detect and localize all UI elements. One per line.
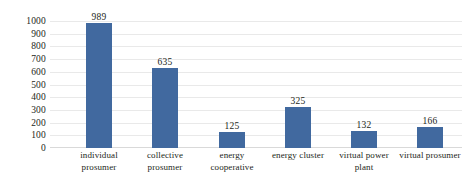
x-label-line2: prosumer [62, 162, 136, 174]
bar-slot: 132 [331, 21, 397, 148]
y-tick-label: 100 [2, 130, 46, 140]
x-axis-label-virtual-prosumer: virtual prosumer [393, 150, 464, 162]
y-tick-label: 800 [2, 41, 46, 51]
y-tick-label: 1000 [2, 16, 46, 26]
bar-slot: 325 [265, 21, 331, 148]
bar-value-label: 635 [158, 57, 173, 68]
bar-value-label: 989 [92, 12, 107, 23]
y-tick-label: 0 [2, 143, 46, 153]
bar-value-label: 125 [225, 121, 240, 132]
bar-slot: 989 [66, 21, 132, 148]
x-axis-label-individual-prosumer: individual prosumer [62, 150, 136, 173]
bar[interactable] [86, 23, 112, 148]
bar-value-label: 166 [423, 116, 438, 127]
y-tick-label: 500 [2, 80, 46, 90]
y-tick-label: 300 [2, 105, 46, 115]
y-tick-label: 700 [2, 54, 46, 64]
x-label-line1: individual [62, 150, 136, 162]
y-tick-label: 900 [2, 29, 46, 39]
x-label-line1: energy [195, 150, 269, 162]
bar[interactable] [417, 127, 443, 148]
bar-slot: 125 [199, 21, 265, 148]
y-tick-label: 600 [2, 67, 46, 77]
bar-chart: 1000 900 800 700 600 500 400 300 200 100… [0, 0, 464, 188]
bar[interactable] [219, 132, 245, 148]
bar[interactable] [285, 107, 311, 148]
bar-value-label: 132 [357, 120, 372, 131]
x-label-line1: virtual prosumer [393, 150, 464, 162]
bar[interactable] [351, 131, 377, 148]
x-label-line2: cooperative [195, 162, 269, 174]
x-label-line1: virtual power [327, 150, 401, 162]
bar-value-label: 325 [291, 96, 306, 107]
x-label-line2: prosumer [128, 162, 202, 174]
x-label-line2: plant [327, 162, 401, 174]
plot-area: 989 635 125 325 132 166 [50, 21, 462, 148]
x-label-line1: energy cluster [261, 150, 335, 162]
x-axis-label-virtual-power-plant: virtual power plant [327, 150, 401, 173]
y-tick-label: 400 [2, 92, 46, 102]
x-label-line1: collective [128, 150, 202, 162]
x-axis-label-energy-cluster: energy cluster [261, 150, 335, 162]
bar-slot: 166 [397, 21, 463, 148]
bar-slot: 635 [132, 21, 198, 148]
x-axis-label-energy-cooperative: energy cooperative [195, 150, 269, 173]
y-tick-label: 200 [2, 118, 46, 128]
x-axis-labels: individual prosumer collective prosumer … [50, 150, 462, 188]
y-axis: 1000 900 800 700 600 500 400 300 200 100… [0, 0, 50, 188]
x-axis-label-collective-prosumer: collective prosumer [128, 150, 202, 173]
bar[interactable] [152, 68, 178, 148]
